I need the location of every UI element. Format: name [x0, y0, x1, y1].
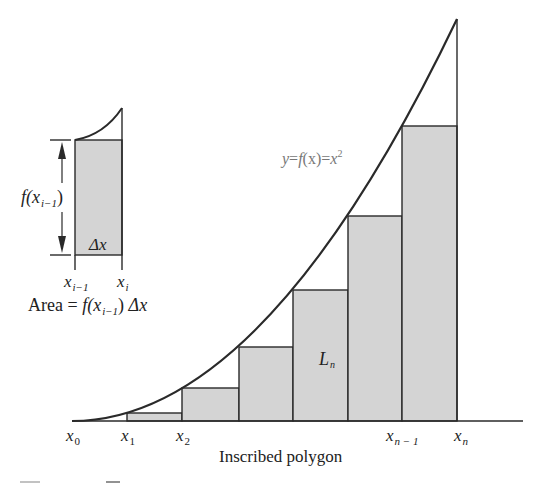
- x-label-xn-1: xn − 1: [386, 427, 418, 447]
- riemann-diagram: [0, 0, 544, 484]
- inscribed-rectangles: [127, 126, 457, 421]
- inset-left-x-label: xi−1: [64, 273, 89, 293]
- inset-curve: [75, 108, 122, 140]
- rectangle-1: [127, 413, 182, 421]
- arrow-up-icon: [58, 142, 66, 159]
- x-label-x1: x1: [121, 427, 135, 447]
- x-label-x0: x0: [66, 427, 80, 447]
- curve-equation-label: y=f(x)=x2: [282, 149, 342, 167]
- diagram-caption: Inscribed polygon: [219, 448, 342, 465]
- rectangle-6: [402, 126, 457, 421]
- x-label-xn: xn: [454, 427, 468, 447]
- inset-area-formula: Area = f(xi−1) Δx: [28, 296, 147, 317]
- inset-height-label: f(xi−1): [20, 188, 64, 209]
- x-label-x2: x2: [176, 427, 190, 447]
- inset-width-label: Δx: [89, 236, 107, 253]
- arrow-down-icon: [58, 236, 66, 253]
- rectangle-5: [348, 216, 402, 421]
- region-label-ln: Ln: [319, 350, 335, 370]
- inset-right-x-label: xi: [117, 273, 129, 293]
- rectangle-3: [239, 347, 293, 421]
- rectangle-2: [182, 388, 239, 421]
